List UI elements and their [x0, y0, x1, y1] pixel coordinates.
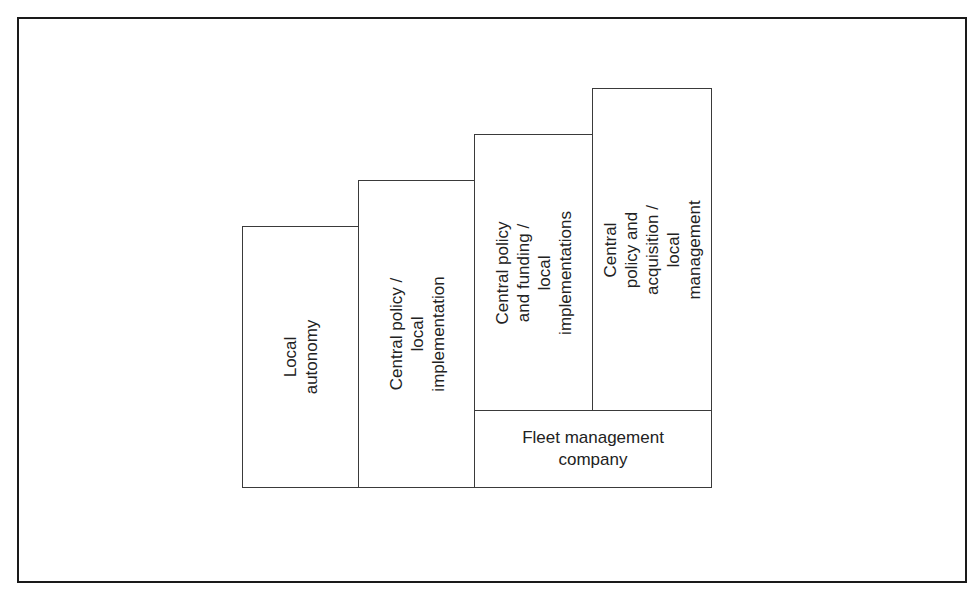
- stage-central-policy-funding: Central policy and funding / local imple…: [474, 134, 593, 411]
- stage-label: Central policy / local implementation: [385, 276, 448, 391]
- stage-label: Local autonomy: [280, 320, 322, 395]
- stage-central-policy-local-implementation: Central policy / local implementation: [358, 180, 475, 488]
- stage-label: Central policy and funding / local imple…: [492, 211, 576, 335]
- base-label: Fleet management company: [475, 427, 711, 471]
- stage-label: Central policy and acquisition / local m…: [600, 200, 705, 299]
- stage-local-autonomy: Local autonomy: [242, 226, 359, 488]
- stage-central-policy-acquisition: Central policy and acquisition / local m…: [592, 88, 712, 411]
- base-fleet-management-company: Fleet management company: [474, 410, 712, 488]
